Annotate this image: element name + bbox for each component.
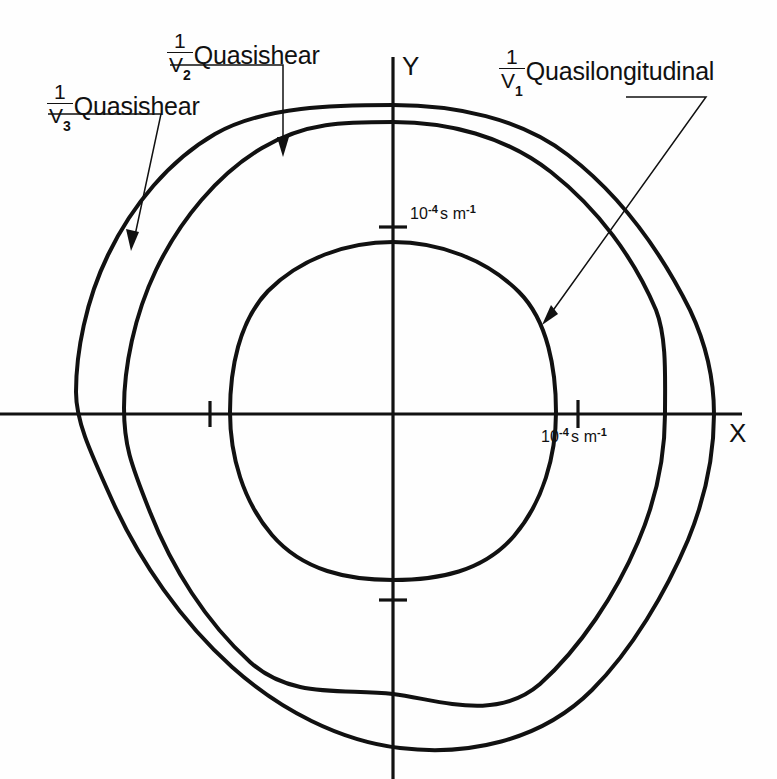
y-axis-tick-unit-label: 10-4s m-1 [410, 206, 476, 222]
x-axis-tick-unit-label: 10-4s m-1 [541, 429, 607, 445]
v1-label-text: Quasilongitudinal [526, 59, 714, 84]
y-axis-label: Y [402, 53, 419, 79]
fraction-one-over-v1: 1 V1 [499, 46, 525, 95]
v1-numerator: 1 [504, 46, 520, 68]
v3-denominator: V3 [47, 103, 73, 130]
v3-label-text: Quasishear [74, 94, 200, 119]
axes-group [0, 57, 742, 779]
v1-denominator: V1 [499, 68, 525, 95]
v2-label-text: Quasishear [194, 43, 320, 68]
slowness-surface-figure: X Y 10-4s m-1 10-4s m-1 1 V3 Quasishear … [0, 0, 777, 779]
v2-denominator: V2 [167, 52, 193, 79]
label-quasishear-v3: 1 V3 Quasishear [47, 82, 200, 131]
leader-quasishear-v3 [48, 114, 161, 251]
curve-quasishear-v3 [76, 105, 714, 750]
fraction-one-over-v2: 1 V2 [167, 30, 193, 79]
arrowhead-v3 [126, 229, 139, 251]
v2-numerator: 1 [172, 30, 188, 52]
arrowhead-v2 [277, 137, 289, 157]
v3-numerator: 1 [52, 81, 68, 103]
x-axis-label: X [729, 420, 746, 446]
label-quasilongitudinal-v1: 1 V1 Quasilongitudinal [499, 47, 714, 96]
label-quasishear-v2: 1 V2 Quasishear [167, 31, 320, 80]
fraction-one-over-v3: 1 V3 [47, 81, 73, 130]
